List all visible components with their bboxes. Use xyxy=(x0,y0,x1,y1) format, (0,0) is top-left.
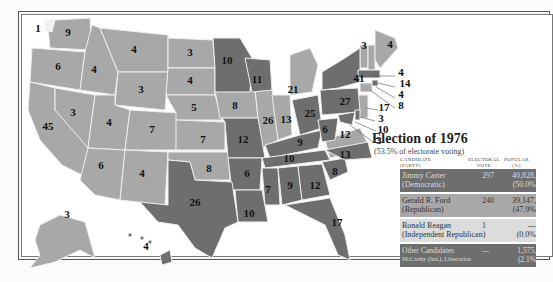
svg-text:21: 21 xyxy=(288,83,299,95)
svg-text:8: 8 xyxy=(332,165,338,177)
svg-text:9: 9 xyxy=(287,179,293,191)
candidate-party: (Independent Republican) xyxy=(402,230,485,239)
electoral-vote: 240 xyxy=(482,196,494,205)
svg-text:12: 12 xyxy=(238,133,250,145)
electoral-vote: — xyxy=(482,246,490,255)
svg-text:45: 45 xyxy=(43,120,55,132)
state-de xyxy=(355,110,360,120)
svg-text:6: 6 xyxy=(55,60,61,72)
state-fl xyxy=(285,198,350,260)
svg-text:6: 6 xyxy=(322,123,328,135)
legend-title: Election of 1976 xyxy=(372,131,468,147)
popular-vote: 1,575, xyxy=(517,246,536,255)
svg-text:8: 8 xyxy=(206,162,212,174)
svg-text:26: 26 xyxy=(263,114,275,126)
svg-text:12: 12 xyxy=(340,128,352,140)
svg-text:25: 25 xyxy=(305,107,317,119)
state-hi xyxy=(160,250,172,265)
svg-text:4: 4 xyxy=(139,167,145,179)
candidate-name: Other Candidates xyxy=(402,246,471,255)
legend-row-other: Other CandidatesMcCarthy (Ind.), Liberta… xyxy=(400,244,536,267)
svg-text:9: 9 xyxy=(65,26,71,38)
popular-vote: 40,828, xyxy=(512,171,536,180)
legend-row-carter: Jimmy Carter(Democratic) 297 40,828, (50… xyxy=(400,169,536,192)
svg-text:5: 5 xyxy=(191,101,197,113)
svg-text:6: 6 xyxy=(98,159,104,171)
svg-text:6: 6 xyxy=(244,167,250,179)
svg-text:8: 8 xyxy=(398,99,404,111)
header-popular: POPULAR (%) xyxy=(504,157,529,169)
svg-text:7: 7 xyxy=(149,123,155,135)
svg-text:10: 10 xyxy=(284,152,296,164)
popular-pct: (50.0% xyxy=(513,180,536,189)
popular-pct: (0.0% xyxy=(517,230,536,239)
svg-text:3: 3 xyxy=(64,208,70,220)
svg-text:4: 4 xyxy=(387,38,393,50)
svg-text:8: 8 xyxy=(232,99,238,111)
svg-text:7: 7 xyxy=(265,183,271,195)
svg-text:11: 11 xyxy=(252,73,262,85)
header-electoral: ELECTORAL VOTE xyxy=(468,157,500,169)
state-ri xyxy=(372,80,378,86)
popular-vote: — xyxy=(528,221,536,230)
svg-text:3: 3 xyxy=(187,46,193,58)
svg-text:4: 4 xyxy=(106,116,112,128)
svg-text:3: 3 xyxy=(361,39,367,51)
svg-text:12: 12 xyxy=(310,179,322,191)
electoral-vote: 1 xyxy=(482,221,486,230)
state-ak xyxy=(30,215,95,268)
svg-text:10: 10 xyxy=(222,54,234,66)
legend-row-ford: Gerald R. Ford(Republican) 240 39,147, (… xyxy=(400,194,536,217)
svg-text:10: 10 xyxy=(244,207,256,219)
svg-text:13: 13 xyxy=(340,148,352,160)
svg-text:4: 4 xyxy=(143,240,149,252)
header-candidate: CANDIDATE (PARTY) xyxy=(400,157,431,169)
candidate-party: (Democratic) xyxy=(402,180,446,189)
state-nh xyxy=(368,45,375,70)
state-az xyxy=(80,148,125,200)
popular-vote: 39,147, xyxy=(512,196,536,205)
svg-text:4: 4 xyxy=(91,63,97,75)
svg-text:26: 26 xyxy=(190,196,202,208)
state-hi-islands xyxy=(128,233,132,237)
svg-text:27: 27 xyxy=(340,95,352,107)
svg-text:41: 41 xyxy=(354,72,365,84)
popular-pct: (47.9% xyxy=(513,205,536,214)
svg-text:9: 9 xyxy=(297,136,303,148)
svg-text:3: 3 xyxy=(138,83,144,95)
popular-pct: (2.1% xyxy=(518,255,536,264)
candidate-name: Jimmy Carter xyxy=(402,171,446,180)
legend-subtitle: (53.5% of electorate voting) xyxy=(374,147,464,156)
svg-text:4: 4 xyxy=(131,43,137,55)
svg-text:13: 13 xyxy=(281,113,293,125)
svg-text:17: 17 xyxy=(332,216,344,228)
candidate-party: McCarthy (Ind.), Libertarian xyxy=(402,255,471,264)
svg-text:7: 7 xyxy=(200,133,206,145)
legend-row-reagan: Ronald Reagan(Independent Republican) 1 … xyxy=(400,219,536,242)
candidate-party: (Republican) xyxy=(402,205,450,214)
candidate-name: Ronald Reagan xyxy=(402,221,485,230)
electoral-vote: 297 xyxy=(482,171,494,180)
svg-text:4: 4 xyxy=(187,74,193,86)
candidate-name: Gerald R. Ford xyxy=(402,196,450,205)
svg-text:1: 1 xyxy=(35,22,41,34)
state-wv xyxy=(318,118,338,142)
svg-text:3: 3 xyxy=(70,106,76,118)
state-ct xyxy=(360,83,372,92)
